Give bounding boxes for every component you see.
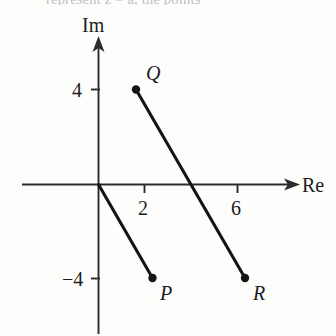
figure-page: represent z = a, the points	[0, 0, 336, 336]
point-dot-R	[241, 274, 249, 282]
argand-diagram: Im Re 4 −4 2 6 Q P R	[0, 0, 336, 336]
point-label-R: R	[252, 282, 265, 304]
tick-label-re-2: 2	[138, 197, 148, 219]
point-label-Q: Q	[146, 62, 161, 84]
tick-label-im-4: 4	[72, 79, 82, 101]
tick-label-im-minus-4: −4	[62, 268, 83, 290]
imaginary-axis-label: Im	[82, 14, 105, 36]
point-label-P: P	[159, 282, 172, 304]
tick-label-re-6: 6	[231, 197, 241, 219]
point-dot-P	[148, 274, 156, 282]
point-dot-Q	[132, 85, 140, 93]
real-axis-label: Re	[302, 174, 324, 196]
